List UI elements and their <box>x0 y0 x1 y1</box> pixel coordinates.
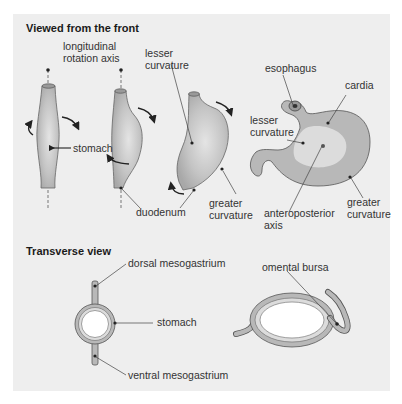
transverse-view-late <box>236 271 348 347</box>
label-ventral-mesogastrium: ventral mesogastrium <box>128 370 228 382</box>
label-omental-bursa: omental bursa <box>262 262 329 274</box>
label-anteroposterior-axis: anteroposterior axis <box>264 208 335 231</box>
label-rotation-axis: longitudinal rotation axis <box>63 41 120 64</box>
label-stomach: stomach <box>73 143 113 155</box>
label-lesser-curvature-mature: lesser curvature <box>250 115 294 138</box>
stomach-stage-2 <box>108 68 154 208</box>
label-greater-curvature-mature: greater curvature <box>347 197 391 220</box>
section-title-front: Viewed from the front <box>26 22 139 34</box>
label-stomach-transverse: stomach <box>157 317 197 329</box>
section-title-transverse: Transverse view <box>26 245 111 257</box>
label-dorsal-mesogastrium: dorsal mesogastrium <box>128 258 225 270</box>
label-esophagus: esophagus <box>265 63 316 75</box>
stomach-stage-4 <box>250 75 370 212</box>
stomach-rotation-figure <box>0 0 402 404</box>
transverse-view-early <box>75 264 153 375</box>
label-lesser-curvature: lesser curvature <box>145 48 189 71</box>
label-duodenum: duodenum <box>136 207 186 219</box>
label-greater-curvature: greater curvature <box>209 198 253 221</box>
stomach-stage-1 <box>29 68 78 208</box>
label-cardia: cardia <box>345 80 374 92</box>
